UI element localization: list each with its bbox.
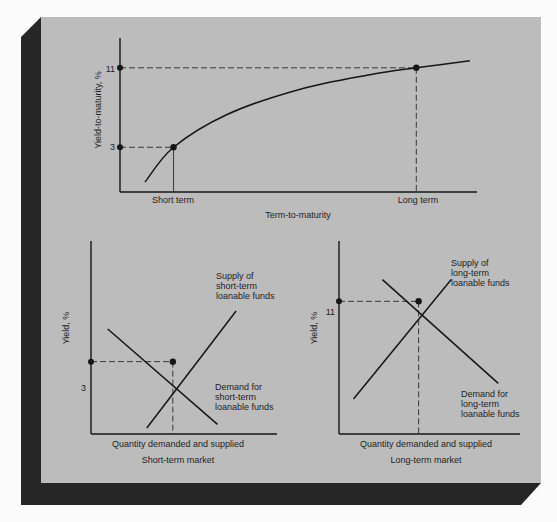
equilibrium-axis-dot	[88, 359, 94, 365]
supply-annotation-line: short-term	[216, 281, 257, 291]
equilibrium-dot	[170, 358, 176, 364]
y-axis-label: Yield, %	[61, 312, 71, 345]
supply-annotation-line: Supply of	[451, 258, 489, 268]
chart-title: Long-term market	[390, 455, 462, 465]
supply-annotation-line: loanable funds	[451, 278, 510, 288]
long-term-point-axis-dot	[117, 65, 123, 71]
short-term-point-dot	[170, 144, 176, 150]
y-axis-label: Yield, %	[309, 312, 319, 345]
short-term-point-axis-dot	[117, 144, 123, 150]
long-term-point-dot	[413, 65, 419, 71]
equilibrium-axis-dot	[336, 298, 342, 304]
figure-yield-curve-and-markets: Yield-to-maturity, % Term-to-maturity Sh…	[0, 0, 557, 522]
x-axis-label: Quantity demanded and supplied	[360, 439, 492, 449]
supply-annotation-line: long-term	[451, 268, 489, 278]
demand-annotation-line: Demand for	[215, 382, 262, 392]
x-tick-long-term: Long term	[398, 195, 439, 205]
y-tick-3: 3	[81, 383, 86, 393]
y-tick-3: 3	[110, 142, 115, 152]
chart-title: Short-term market	[142, 455, 215, 465]
y-tick-11: 11	[106, 64, 115, 74]
x-axis-label: Term-to-maturity	[265, 210, 331, 220]
x-axis-label: Quantity demanded and supplied	[112, 439, 244, 449]
demand-annotation-line: Demand for	[461, 389, 508, 399]
y-tick-11: 11	[326, 307, 335, 317]
demand-annotation-line: short-term	[215, 392, 256, 402]
demand-annotation-line: loanable funds	[461, 409, 520, 419]
demand-annotation-line: long-term	[461, 399, 499, 409]
x-tick-short-term: Short term	[152, 195, 194, 205]
equilibrium-dot	[415, 298, 421, 304]
supply-annotation-line: Supply of	[216, 271, 254, 281]
supply-annotation-line: loanable funds	[216, 291, 275, 301]
y-axis-label: Yield-to-maturity, %	[93, 71, 103, 149]
demand-annotation-line: loanable funds	[215, 402, 274, 412]
